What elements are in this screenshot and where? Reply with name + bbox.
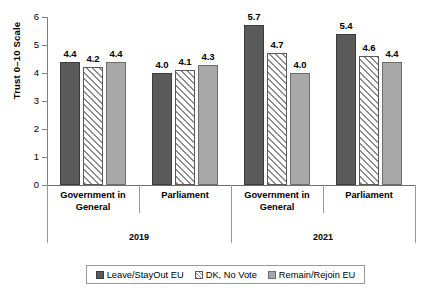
chart-legend: Leave/StayOut EUDK, No VoteRemain/Rejoin… bbox=[86, 265, 365, 284]
bar bbox=[290, 73, 310, 185]
bar bbox=[244, 25, 264, 185]
group-label: 2019 bbox=[47, 232, 231, 242]
y-axis-tick: 6 bbox=[42, 17, 47, 18]
bar bbox=[60, 62, 80, 185]
bar bbox=[198, 65, 218, 185]
legend-label: Leave/StayOut EU bbox=[107, 270, 184, 280]
bar bbox=[267, 53, 287, 185]
y-axis-tick-label: 2 bbox=[19, 122, 39, 135]
legend-item[interactable]: Leave/StayOut EU bbox=[96, 270, 184, 280]
legend-swatch-icon bbox=[195, 271, 203, 279]
bar bbox=[336, 34, 356, 185]
bar bbox=[83, 67, 103, 185]
y-axis-tick-label: 0 bbox=[19, 178, 39, 191]
bar-value-label: 5.7 bbox=[239, 11, 269, 22]
y-axis-tick-label: 1 bbox=[19, 150, 39, 163]
bar-value-label: 5.4 bbox=[331, 20, 361, 31]
y-axis-tick: 1 bbox=[42, 157, 47, 158]
y-axis-tick: 2 bbox=[42, 129, 47, 130]
legend-label: Remain/Rejoin EU bbox=[279, 270, 355, 280]
category-label-line: Government in bbox=[231, 190, 323, 202]
bar bbox=[382, 62, 402, 185]
category-label-line: Parliament bbox=[139, 190, 231, 202]
category-label: Parliament bbox=[323, 190, 415, 202]
legend-swatch-icon bbox=[96, 271, 104, 279]
category-label-line: Government in bbox=[47, 190, 139, 202]
bar-chart: Trust 0–10 Scale 0123456 4.44.24.44.04.1… bbox=[0, 0, 433, 296]
y-axis-tick-label: 3 bbox=[19, 94, 39, 107]
bar bbox=[175, 70, 195, 185]
legend-label: DK, No Vote bbox=[206, 270, 257, 280]
category-label: Government inGeneral bbox=[231, 190, 323, 213]
bar-value-label: 4.4 bbox=[377, 48, 407, 59]
legend-swatch-icon bbox=[268, 271, 276, 279]
plot-area: 0123456 4.44.24.44.04.14.35.74.74.05.44.… bbox=[47, 17, 415, 185]
category-label: Parliament bbox=[139, 190, 231, 202]
bar bbox=[106, 62, 126, 185]
bar bbox=[152, 73, 172, 185]
y-axis-tick-label: 6 bbox=[19, 10, 39, 23]
category-label-line: General bbox=[47, 202, 139, 214]
category-separator bbox=[415, 185, 416, 243]
category-label: Government inGeneral bbox=[47, 190, 139, 213]
bar bbox=[359, 56, 379, 185]
y-axis-tick: 5 bbox=[42, 45, 47, 46]
bar-value-label: 4.0 bbox=[285, 59, 315, 70]
legend-item[interactable]: DK, No Vote bbox=[195, 270, 257, 280]
category-label-line: General bbox=[231, 202, 323, 214]
y-axis-tick: 4 bbox=[42, 73, 47, 74]
bar-value-label: 4.4 bbox=[101, 48, 131, 59]
y-axis-line bbox=[47, 17, 48, 185]
legend-item[interactable]: Remain/Rejoin EU bbox=[268, 270, 355, 280]
category-label-line: Parliament bbox=[323, 190, 415, 202]
y-axis-tick: 3 bbox=[42, 101, 47, 102]
bar-value-label: 4.3 bbox=[193, 51, 223, 62]
bar-value-label: 4.7 bbox=[262, 39, 292, 50]
y-axis-tick-label: 5 bbox=[19, 38, 39, 51]
group-label: 2021 bbox=[231, 232, 415, 242]
y-axis-tick-label: 4 bbox=[19, 66, 39, 79]
